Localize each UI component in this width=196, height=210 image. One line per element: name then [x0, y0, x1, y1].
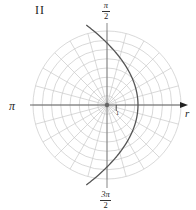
label-denominator: 2	[103, 201, 107, 210]
grid-ray	[107, 68, 171, 105]
polar-plot	[0, 0, 196, 210]
panel-label: II	[35, 4, 45, 16]
axes	[30, 23, 188, 188]
label-unit-tick: 1	[116, 110, 119, 116]
grid-ray	[43, 68, 107, 105]
grid-ray	[70, 41, 107, 105]
grid-ray	[36, 86, 107, 105]
grid-ray	[107, 86, 178, 105]
grid-ray	[36, 105, 107, 124]
label-numerator: 3π	[101, 190, 110, 199]
grid-ray	[107, 105, 144, 169]
label-3pi-over-2: 3π 2	[100, 190, 111, 210]
label-pi: π	[9, 100, 15, 112]
grid-ray	[55, 53, 107, 105]
grid-ray	[107, 34, 126, 105]
grid-ray	[107, 41, 144, 105]
label-pi-over-2: π 2	[102, 1, 110, 21]
grid-ray	[88, 34, 107, 105]
label-numerator: π	[104, 1, 108, 10]
label-r-axis: r	[185, 108, 189, 119]
origin-point	[105, 103, 109, 107]
grid-ray	[70, 105, 107, 169]
label-denominator: 2	[104, 12, 108, 21]
grid-ray	[88, 105, 107, 176]
grid-ray	[55, 105, 107, 157]
grid-ray	[43, 105, 107, 142]
